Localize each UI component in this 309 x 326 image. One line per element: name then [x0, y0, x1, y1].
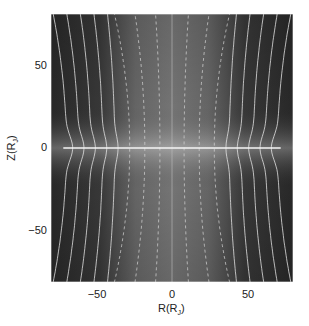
x-tick-label-0: 0: [152, 288, 192, 300]
x-tick-label-neg50: −50: [77, 288, 117, 300]
y-tick-label-0: 0: [17, 141, 47, 153]
x-tick-label-50: 50: [228, 288, 268, 300]
plot-area: [51, 8, 293, 289]
magnetodisc-plot: [0, 0, 309, 326]
y-axis-title: Z(RJ): [5, 135, 19, 161]
y-tick-label-neg50: −50: [17, 224, 47, 236]
y-tick-label-50: 50: [17, 59, 47, 71]
x-axis-title: R(RJ): [158, 302, 185, 316]
